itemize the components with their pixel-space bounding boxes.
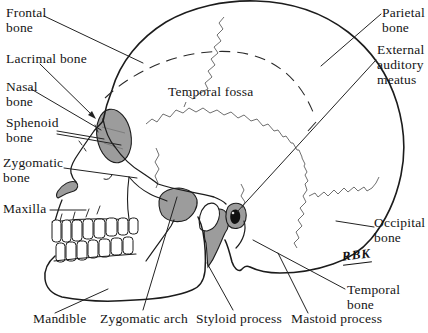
leader-styloid bbox=[207, 263, 233, 310]
leader-parietal-bone bbox=[321, 14, 381, 66]
skull-diagram-page: Frontal bone Lacrimal bone Nasal bone Sp… bbox=[0, 0, 428, 333]
label-frontal-bone: Frontal bone bbox=[6, 5, 46, 35]
label-mandible: Mandible bbox=[33, 311, 86, 326]
lambdoid-suture-posterior bbox=[309, 177, 379, 197]
label-nasal-bone: Nasal bone bbox=[6, 79, 38, 109]
label-styloid-process: Styloid process bbox=[196, 311, 282, 326]
sphenoid-shade bbox=[93, 106, 136, 165]
label-external-auditory-meatus: External auditory meatus bbox=[377, 42, 424, 87]
meatus-highlight bbox=[232, 212, 235, 215]
teeth bbox=[52, 218, 138, 262]
label-parietal-bone: Parietal bone bbox=[382, 5, 425, 35]
leader-mastoid bbox=[278, 253, 308, 313]
label-temporal-bone: Temporal bone bbox=[347, 282, 428, 312]
label-temporal-fossa: Temporal fossa bbox=[168, 84, 253, 99]
cranium-outline bbox=[103, 1, 404, 273]
leader-zygomatic-arch bbox=[143, 197, 177, 310]
leader-lacrimal-bone bbox=[40, 64, 93, 116]
squamosal-suture bbox=[146, 108, 308, 190]
label-occipital-bone: Occipital bone bbox=[374, 215, 425, 245]
label-mastoid-process: Mastoid process bbox=[291, 311, 382, 326]
label-lacrimal-bone: Lacrimal bone bbox=[6, 51, 87, 66]
label-maxilla: Maxilla bbox=[3, 201, 46, 216]
label-zygomatic-bone: Zygomatic bone bbox=[3, 155, 63, 185]
lambdoid-suture-lower bbox=[294, 190, 307, 248]
leader-occipital-bone bbox=[336, 221, 374, 227]
leader-zygomatic-bone bbox=[64, 168, 137, 178]
zygomatic-arch-shade bbox=[159, 188, 197, 222]
label-zygomatic-arch: Zygomatic arch bbox=[100, 311, 188, 326]
label-sphenoid-bone: Sphenoid bone bbox=[6, 115, 59, 145]
illustrator-signature: RBK bbox=[341, 245, 372, 265]
